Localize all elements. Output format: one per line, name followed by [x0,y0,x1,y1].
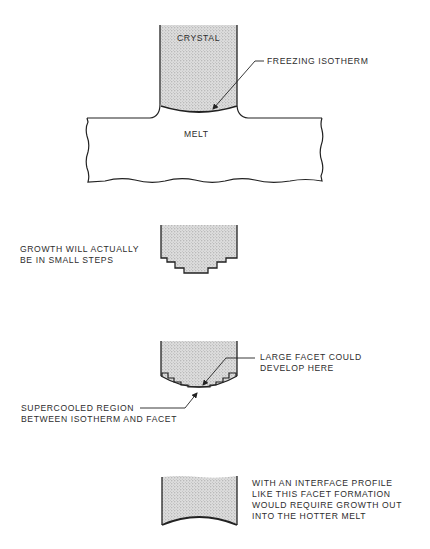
supercooled-region-label: SUPERCOOLED REGION BETWEEN ISOTHERM AND … [21,403,177,425]
small-steps-label: GROWTH WILL ACTUALLY BE IN SMALL STEPS [20,244,139,266]
interface-profile-line-1: WITH AN INTERFACE PROFILE [252,478,402,489]
small-steps-label-line-1: GROWTH WILL ACTUALLY [20,244,139,255]
faceted-crystal-body [161,341,237,387]
melt-label: MELT [184,129,209,140]
panel-2-stepped-interface [161,225,237,273]
panel-3-facet-interface [140,341,255,408]
interface-profile-line-4: INTO THE HOTTER MELT [252,511,402,522]
freezing-isotherm-label: FREEZING ISOTHERM [267,56,368,67]
small-steps-label-line-2: BE IN SMALL STEPS [20,255,139,266]
interface-profile-line-2: LIKE THIS FACET FORMATION [252,489,402,500]
supercooled-label-line-1: SUPERCOOLED REGION [21,403,177,414]
crystal-label: CRYSTAL [177,33,220,44]
supercooled-label-line-2: BETWEEN ISOTHERM AND FACET [21,414,177,425]
large-facet-label: LARGE FACET COULD DEVELOP HERE [260,352,362,374]
melt-outline [86,104,323,182]
interface-profile-label: WITH AN INTERFACE PROFILE LIKE THIS FACE… [252,478,402,522]
large-facet-label-line-1: LARGE FACET COULD [260,352,362,363]
panel-4-concave-interface [162,476,237,525]
stepped-crystal-body [161,225,237,273]
crystal-growth-diagram [0,0,430,549]
interface-profile-line-3: WOULD REQUIRE GROWTH OUT [252,500,402,511]
large-facet-label-line-2: DEVELOP HERE [260,363,362,374]
panel-1-crystal-and-melt [86,25,323,182]
